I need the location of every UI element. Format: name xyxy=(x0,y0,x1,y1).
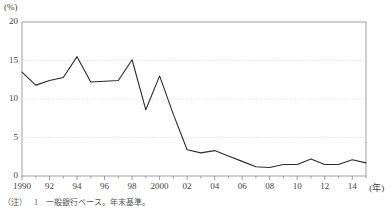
y-axis-tick-label: 10 xyxy=(0,93,18,103)
x-axis-tick-label: 14 xyxy=(332,181,372,191)
y-axis-tick-label: 20 xyxy=(0,16,18,26)
chart-container: (%) （注）1一般銀行ベース。年末基準。 051015201990929496… xyxy=(0,0,390,209)
y-axis-tick-label: 15 xyxy=(0,55,18,65)
data-series-line xyxy=(22,57,366,168)
line-chart-plot xyxy=(0,0,390,209)
y-axis-tick-label: 0 xyxy=(0,170,18,180)
footnote-number: 1 xyxy=(34,198,38,207)
y-axis-unit-label: (%) xyxy=(4,2,18,12)
chart-footnote: （注）1一般銀行ベース。年末基準。 xyxy=(3,196,150,207)
footnote-text: 一般銀行ベース。年末基準。 xyxy=(46,198,150,207)
footnote-tag: （注） xyxy=(3,198,27,207)
x-axis-unit-label: (年) xyxy=(369,181,384,194)
y-axis-tick-label: 5 xyxy=(0,132,18,142)
